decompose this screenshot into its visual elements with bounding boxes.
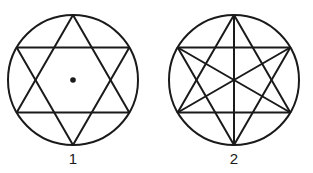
figure-2-label: 2 <box>230 150 238 167</box>
figure-1-downward-triangle <box>17 48 130 146</box>
figure-1-label: 1 <box>69 150 77 167</box>
figure-1-upward-triangle <box>17 15 130 113</box>
figure-1-center-dot <box>70 77 76 83</box>
figure-1-hexagram-with-dot: 1 <box>8 15 138 167</box>
figure-2-hexagram-with-diameters: 2 <box>169 15 299 167</box>
diagram-canvas: 1 2 <box>0 0 313 173</box>
